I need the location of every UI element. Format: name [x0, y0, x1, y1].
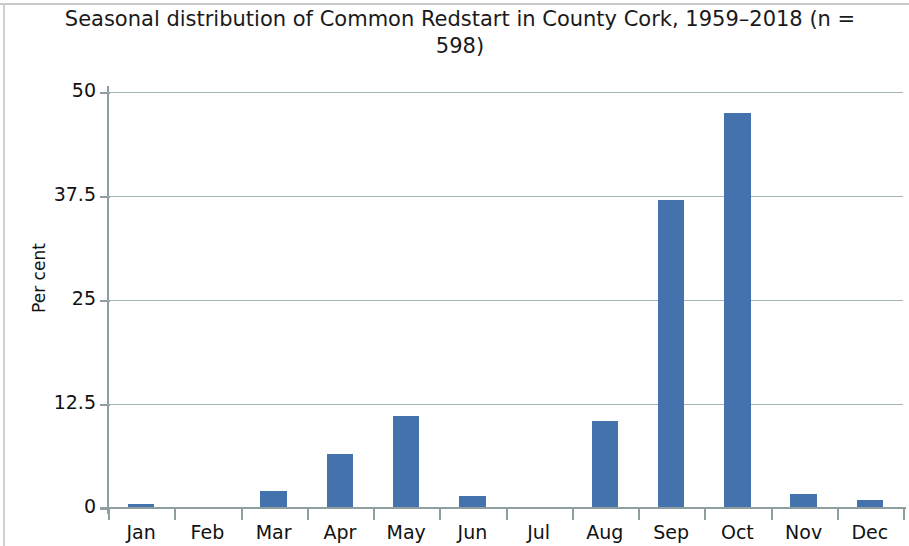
- x-tick-label-sep: Sep: [638, 521, 704, 543]
- bar-apr: [327, 454, 354, 508]
- x-tick-mark: [638, 509, 640, 520]
- x-tick-mark: [903, 509, 905, 520]
- chart-title: Seasonal distribution of Common Redstart…: [60, 6, 860, 60]
- x-tick-label-dec: Dec: [837, 521, 903, 543]
- x-tick-mark: [373, 509, 375, 520]
- x-tick-label-jun: Jun: [439, 521, 505, 543]
- bar-chart-figure: Seasonal distribution of Common Redstart…: [0, 0, 909, 546]
- bar-mar: [260, 491, 287, 508]
- gridline-y: [108, 92, 903, 93]
- y-tick-label: 0: [18, 495, 96, 517]
- x-tick-label-feb: Feb: [174, 521, 240, 543]
- x-tick-mark: [439, 509, 441, 520]
- x-tick-label-nov: Nov: [771, 521, 837, 543]
- x-tick-mark: [307, 509, 309, 520]
- page-left-rule: [3, 3, 5, 546]
- x-tick-mark: [837, 509, 839, 520]
- x-tick-mark: [241, 509, 243, 520]
- x-axis-line: [100, 507, 906, 509]
- x-tick-label-mar: Mar: [241, 521, 307, 543]
- x-tick-mark: [704, 509, 706, 520]
- y-tick-label: 12.5: [18, 391, 96, 413]
- plot-area: [108, 92, 903, 508]
- bar-oct: [724, 113, 751, 508]
- bar-sep: [658, 200, 685, 508]
- gridline-y: [108, 404, 903, 405]
- x-tick-mark: [506, 509, 508, 520]
- x-tick-label-jul: Jul: [506, 521, 572, 543]
- bar-nov: [790, 494, 817, 508]
- x-tick-label-jan: Jan: [108, 521, 174, 543]
- page-top-rule: [0, 3, 909, 5]
- bar-aug: [592, 421, 619, 508]
- y-tick-label: 50: [18, 79, 96, 101]
- x-tick-mark: [108, 509, 110, 520]
- bar-may: [393, 416, 420, 508]
- y-tick-label: 37.5: [18, 183, 96, 205]
- x-tick-label-oct: Oct: [704, 521, 770, 543]
- y-tick-label: 25: [18, 287, 96, 309]
- x-tick-mark: [771, 509, 773, 520]
- x-tick-mark: [174, 509, 176, 520]
- x-tick-label-aug: Aug: [572, 521, 638, 543]
- x-tick-label-may: May: [373, 521, 439, 543]
- y-axis-title: Per cent: [29, 223, 49, 333]
- gridline-y: [108, 300, 903, 301]
- x-tick-label-apr: Apr: [307, 521, 373, 543]
- x-tick-mark: [572, 509, 574, 520]
- gridline-y: [108, 196, 903, 197]
